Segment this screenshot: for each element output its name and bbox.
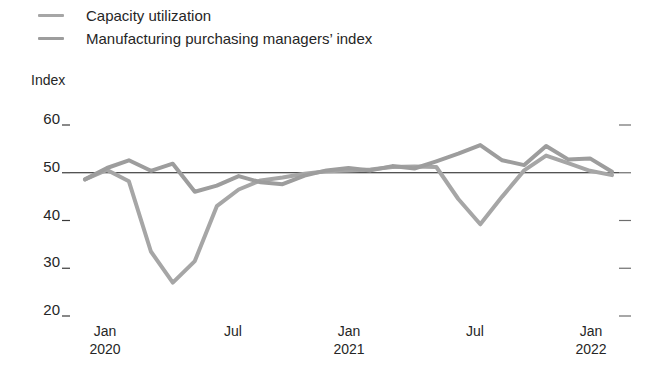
y-axis-ticks-left (62, 125, 70, 316)
x-tick-label-jan-2022: Jan 2022 (556, 323, 626, 359)
x-tick-month: Jan (556, 323, 626, 340)
x-tick-label-jan-2021: Jan 2021 (314, 323, 384, 359)
x-tick-month: Jan (70, 323, 140, 340)
x-tick-year: 2021 (314, 340, 384, 359)
series-line-pmi (85, 145, 612, 192)
series-line-capacity-utilization (85, 156, 612, 283)
y-axis-ticks-right (619, 125, 631, 316)
x-tick-month: Jul (440, 323, 510, 340)
x-tick-label-jan-2020: Jan 2020 (70, 323, 140, 359)
x-tick-label-jul-2020: Jul (198, 323, 268, 340)
x-tick-month: Jul (198, 323, 268, 340)
x-tick-label-jul-2021: Jul (440, 323, 510, 340)
x-tick-year: 2022 (556, 340, 626, 359)
figure: Capacity utilization Manufacturing purch… (0, 0, 659, 372)
plot-area (0, 0, 659, 372)
x-tick-month: Jan (314, 323, 384, 340)
x-tick-year: 2020 (70, 340, 140, 359)
